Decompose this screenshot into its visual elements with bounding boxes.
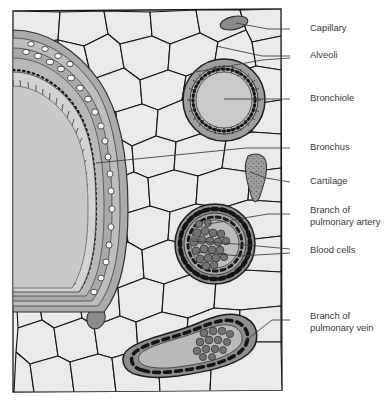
label-blood-cells: Blood cells [310, 244, 356, 255]
bronchiole-structure [183, 59, 265, 141]
label-vein: Branch ofpulmonary vein [310, 310, 374, 333]
label-bronchiole: Bronchiole [310, 92, 354, 103]
diagram-canvas: CapillaryAlveoliBronchioleBronchusCartil… [0, 0, 385, 403]
label-cartilage: Cartilage [310, 175, 348, 186]
label-capillary: Capillary [310, 22, 347, 33]
lung-histology-figure: CapillaryAlveoliBronchioleBronchusCartil… [0, 0, 385, 403]
label-bronchus: Bronchus [310, 141, 350, 152]
label-alveoli: Alveoli [310, 49, 338, 60]
label-artery: Branch ofpulmonary artery [310, 204, 381, 227]
pulmonary-artery-structure [175, 204, 255, 284]
